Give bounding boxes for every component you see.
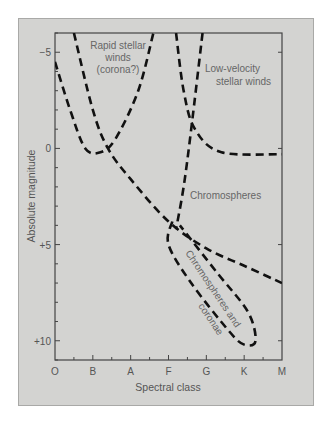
label-low-velocity-line2: stellar winds	[216, 76, 271, 87]
x-tick-label-A: A	[127, 366, 134, 377]
y-tick-label: 0	[45, 143, 51, 154]
label-rapid-winds-line1: Rapid stellar	[90, 40, 146, 51]
x-tick-label-K: K	[241, 366, 248, 377]
label-low-velocity-line1: Low-velocity	[205, 63, 260, 74]
y-tick-label: +10	[34, 336, 51, 347]
x-tick-label-G: G	[202, 366, 210, 377]
x-tick-label-O: O	[51, 366, 59, 377]
x-tick-label-F: F	[165, 366, 171, 377]
label-rapid-winds-line2: winds	[104, 52, 131, 63]
curve-low-velocity-boundary	[176, 33, 282, 155]
x-axis-title: Spectral class	[135, 381, 200, 393]
x-tick-label-M: M	[278, 366, 286, 377]
y-axis-title: Absolute magnitude	[25, 149, 37, 242]
label-chromospheres: Chromospheres	[190, 190, 261, 201]
spectral-class-magnitude-diagram: OBAFGKM−50+5+10 Spectral class Absolute …	[0, 0, 333, 425]
curve-rapid-winds-boundary	[55, 33, 153, 154]
x-tick-label-B: B	[89, 366, 96, 377]
y-tick-label: +5	[40, 240, 52, 251]
label-rapid-winds-line3: (corona?)	[97, 64, 140, 75]
y-tick-label: −5	[40, 47, 52, 58]
